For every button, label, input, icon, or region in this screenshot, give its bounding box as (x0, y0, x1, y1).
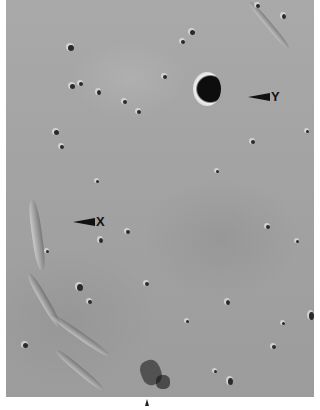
crater (77, 284, 83, 291)
crater-y (193, 72, 221, 106)
crater (97, 90, 101, 95)
ridge (54, 348, 104, 392)
crater (216, 170, 219, 173)
crater (186, 320, 189, 323)
crater (96, 180, 99, 183)
lunar-surface-photo: Y X (6, 0, 314, 397)
crater (181, 40, 185, 44)
crater (79, 82, 83, 86)
crater (99, 238, 103, 243)
crater (309, 312, 314, 320)
crater (282, 322, 285, 325)
dark-patch (156, 375, 170, 389)
crater (123, 100, 127, 104)
crater (226, 300, 230, 305)
crater (23, 343, 28, 348)
ridge (27, 200, 47, 271)
crater (296, 240, 299, 243)
north-arrow-icon (145, 399, 149, 406)
crater (228, 378, 233, 385)
crater (88, 300, 92, 304)
crater (251, 140, 255, 144)
arrow-left-icon (73, 218, 95, 226)
label-x: X (73, 215, 105, 228)
crater (163, 75, 167, 79)
ridge (247, 0, 290, 50)
label-y-text: Y (271, 90, 280, 103)
arrow-left-icon (248, 93, 270, 101)
crater (306, 130, 309, 133)
crater (46, 250, 49, 253)
crater (54, 130, 59, 135)
label-x-text: X (96, 215, 105, 228)
crater (68, 45, 74, 51)
crater (126, 230, 130, 234)
label-y: Y (248, 90, 280, 103)
crater (190, 30, 195, 35)
crater (70, 84, 75, 89)
crater (266, 225, 270, 229)
crater (214, 370, 217, 373)
crater (137, 110, 141, 114)
crater (145, 282, 149, 286)
crater (282, 14, 286, 19)
crater (60, 145, 64, 149)
crater (272, 345, 276, 349)
crater (256, 4, 260, 8)
